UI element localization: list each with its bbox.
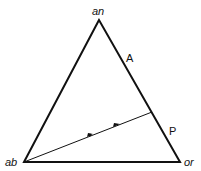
ternary-diagram: an ab or A P <box>0 0 201 171</box>
vertex-label-ab: ab <box>5 156 17 168</box>
vertex-label-an: an <box>92 5 104 17</box>
triangle <box>24 20 180 162</box>
composition-path-line <box>24 112 152 162</box>
edge-label-p: P <box>169 125 176 137</box>
vertex-label-or: or <box>184 156 195 168</box>
dot-marker <box>89 134 91 136</box>
edge-label-a: A <box>126 52 134 64</box>
